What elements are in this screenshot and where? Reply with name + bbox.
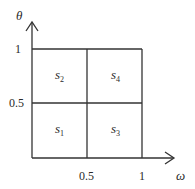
x-tick-1: 1 [139,169,145,183]
y-axis-label: θ [16,8,23,23]
y-tick-1: 1 [15,42,21,56]
region-s4: s4 [111,67,120,84]
x-tick-0-5: 0.5 [79,169,94,183]
x-axis-label: ω [176,168,185,183]
region-s3: s3 [111,121,120,138]
diagram-canvas: θ ω 1 0.5 0.5 1 s2 s4 s1 s3 [0,0,195,189]
diagram: θ ω 1 0.5 0.5 1 s2 s4 s1 s3 [0,0,195,189]
region-s2: s2 [55,67,64,84]
y-tick-0-5: 0.5 [9,96,24,110]
region-s1: s1 [55,121,64,138]
